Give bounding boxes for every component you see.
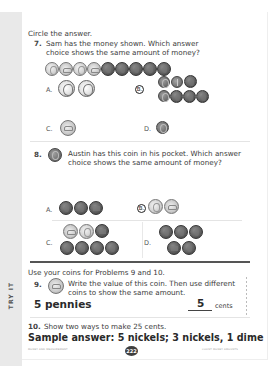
problem-7-text-line2: choice shows the same amount of money? bbox=[46, 48, 200, 58]
penny-coin-icon bbox=[60, 241, 74, 255]
penny-coin-icon bbox=[183, 90, 196, 103]
problem-7-number: 7. bbox=[34, 39, 42, 49]
problem-9-text-line2: coins to show the same amount. bbox=[68, 288, 185, 298]
nickel-coin-icon bbox=[79, 224, 94, 239]
worksheet-page: Circle the answer. 7. Sam has the money … bbox=[22, 12, 268, 360]
section-divider bbox=[30, 261, 250, 263]
penny-coin-icon bbox=[196, 90, 209, 103]
penny-coin-icon bbox=[157, 62, 171, 76]
problem-10-number: 10. bbox=[28, 322, 41, 332]
quarter-coin-icon bbox=[78, 80, 95, 97]
dime-back-coin-icon bbox=[171, 76, 183, 88]
problem-9-answer-value[interactable]: 5 bbox=[197, 297, 204, 309]
problem-8-text-line2: choice shows the same amount of money? bbox=[68, 158, 222, 168]
penny-coin-icon bbox=[184, 75, 197, 88]
instruction-circle-answer: Circle the answer. bbox=[28, 29, 92, 39]
choice-7a-letter[interactable]: A. bbox=[46, 86, 52, 94]
quarter-coin-icon bbox=[58, 80, 75, 97]
divider bbox=[30, 141, 250, 142]
page-number-badge: 222 bbox=[125, 346, 138, 356]
penny-coin-icon bbox=[105, 241, 119, 255]
dime-coin-icon bbox=[48, 148, 62, 162]
nickel-back-coin-icon bbox=[59, 62, 73, 76]
penny-back-coin-icon bbox=[89, 201, 103, 215]
dime-coin-icon bbox=[156, 121, 169, 134]
problem-9-unit: cents bbox=[215, 302, 233, 312]
penny-coin-icon bbox=[129, 62, 143, 76]
nickel-coin-icon bbox=[45, 62, 59, 76]
nickel-back-coin-icon bbox=[63, 224, 78, 239]
nickel-back-coin-icon bbox=[87, 62, 101, 76]
penny-coin-icon bbox=[143, 62, 157, 76]
nickel-back-coin-icon bbox=[164, 199, 179, 214]
choice-7c-letter[interactable]: C. bbox=[46, 125, 53, 133]
penny-coin-icon bbox=[74, 201, 88, 215]
nickel-back-coin-icon bbox=[48, 278, 64, 294]
dime-coin-icon bbox=[158, 76, 170, 88]
dime-coin-icon bbox=[158, 90, 170, 102]
problem-10-text: Show two ways to make 25 cents. bbox=[44, 322, 166, 332]
penny-coin-icon bbox=[159, 225, 173, 239]
choice-7d-letter[interactable]: D. bbox=[144, 125, 151, 133]
divider-vertical bbox=[142, 222, 143, 258]
problem-9-answer-work: 5 pennies bbox=[34, 298, 92, 310]
side-copyright-mark bbox=[246, 277, 247, 315]
penny-coin-icon bbox=[59, 201, 73, 215]
penny-coin-icon bbox=[170, 90, 183, 103]
answer-blank-line bbox=[188, 310, 212, 311]
divider bbox=[30, 317, 250, 318]
penny-coin-icon bbox=[75, 241, 89, 255]
choice-8b-circled-letter[interactable]: B. bbox=[137, 204, 146, 213]
penny-coin-icon bbox=[182, 241, 196, 255]
choice-8a-letter[interactable]: A. bbox=[46, 206, 52, 214]
nickel-back-coin-icon bbox=[60, 120, 76, 136]
side-margin-strip bbox=[0, 12, 22, 366]
penny-coin-icon bbox=[101, 62, 115, 76]
choice-7b-circled-letter[interactable]: B. bbox=[135, 85, 144, 94]
problem-10-answer: Sample answer: 5 nickels; 3 nickels, 1 d… bbox=[28, 332, 263, 343]
penny-back-coin-icon bbox=[95, 224, 109, 238]
try-it-tab-label: TRY IT bbox=[7, 282, 17, 309]
choice-8d-letter[interactable]: D. bbox=[144, 239, 151, 247]
footer-right-label: COUNT MONEY AMOUNTS bbox=[202, 348, 238, 351]
penny-coin-icon bbox=[174, 225, 188, 239]
penny-coin-icon bbox=[90, 241, 104, 255]
nickel-coin-icon bbox=[148, 199, 163, 214]
problem-8-number: 8. bbox=[34, 150, 42, 160]
divider bbox=[52, 220, 242, 221]
problem-9-number: 9. bbox=[34, 280, 42, 290]
penny-back-coin-icon bbox=[167, 241, 181, 255]
penny-coin-icon bbox=[189, 225, 203, 239]
footer-left-label: MONEY AND MEASUREMENT bbox=[28, 348, 68, 351]
penny-coin-icon bbox=[115, 62, 129, 76]
instruction-use-coins: Use your coins for Problems 9 and 10. bbox=[28, 268, 165, 278]
choice-8c-letter[interactable]: C. bbox=[46, 239, 53, 247]
nickel-coin-icon bbox=[73, 62, 87, 76]
